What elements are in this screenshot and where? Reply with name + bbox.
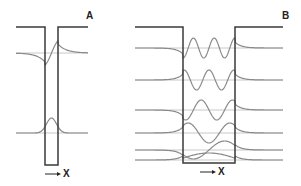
wavefunction-state-n1: [135, 153, 283, 160]
quantum-well-diagram: [0, 0, 301, 186]
panel-label-a: A: [86, 10, 93, 21]
arrow-head-icon: [212, 170, 216, 174]
potential-well: [16, 27, 88, 165]
wavefunction-ground-state: [16, 118, 88, 133]
arrow-head-icon: [57, 172, 61, 176]
wavefunction-state-n4: [135, 100, 283, 120]
wavefunction-state-n2: [135, 141, 283, 159]
panel-a-narrow-well: [16, 27, 88, 176]
x-axis-label-b: X: [218, 166, 225, 177]
panel-b-wide-well: [135, 27, 283, 174]
panel-label-b: B: [282, 10, 289, 21]
x-axis-label-a: X: [63, 168, 70, 179]
wavefunction-state-n6: [135, 38, 283, 58]
